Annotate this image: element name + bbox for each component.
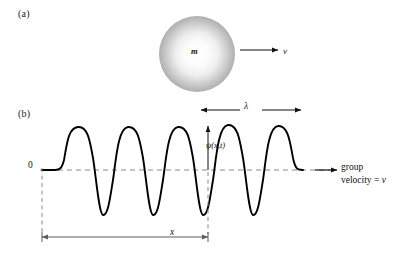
physics-figure-wave-packet: (a) m v (b) 0 ψ(x,t) λ x group velocity … <box>0 0 415 255</box>
wave-packet-curve <box>42 125 303 215</box>
figure-vector-layer <box>0 0 415 255</box>
